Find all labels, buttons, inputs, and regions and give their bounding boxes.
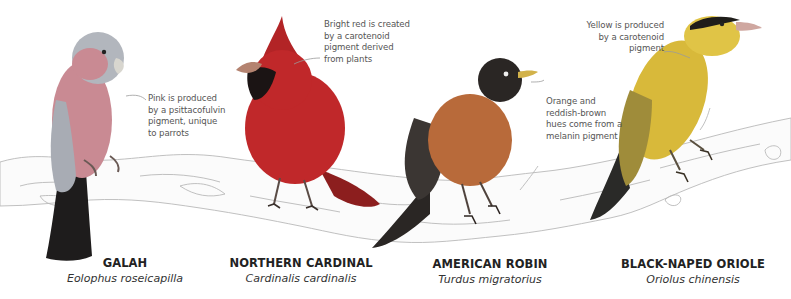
callout-line: Yellow is produced xyxy=(560,20,664,32)
pigment-infographic: Pink is produced by a psittacofulvin pig… xyxy=(0,0,791,299)
callout-line: melanin pigment xyxy=(546,131,622,143)
callout-line: from plants xyxy=(324,54,410,66)
callout-line: by a psittacofulvin xyxy=(148,105,225,117)
robin-label: AMERICAN ROBIN Turdus migratorius xyxy=(400,257,580,286)
cardinal-label: NORTHERN CARDINAL Cardinalis cardinalis xyxy=(211,256,391,285)
callout-line: reddish-brown xyxy=(546,108,622,120)
scientific-name: Oriolus chinensis xyxy=(603,273,783,286)
galah-label: GALAH Eolophus roseicapilla xyxy=(35,256,215,285)
common-name: GALAH xyxy=(35,256,215,270)
callout-line: Pink is produced xyxy=(148,93,225,105)
callout-line: by a carotenoid xyxy=(560,32,664,44)
callout-line: hues come from a xyxy=(546,119,622,131)
scientific-name: Cardinalis cardinalis xyxy=(211,272,391,285)
callout-line: Orange and xyxy=(546,96,622,108)
callout-line: Bright red is created xyxy=(324,19,410,31)
callout-line: by a carotenoid xyxy=(324,31,410,43)
common-name: AMERICAN ROBIN xyxy=(400,257,580,271)
common-name: BLACK-NAPED ORIOLE xyxy=(603,257,783,271)
callout-line: pigment, unique xyxy=(148,116,225,128)
galah-callout: Pink is produced by a psittacofulvin pig… xyxy=(148,93,225,139)
callout-line: to parrots xyxy=(148,128,225,140)
galah-illustration xyxy=(46,32,124,261)
scientific-name: Turdus migratorius xyxy=(400,273,580,286)
common-name: NORTHERN CARDINAL xyxy=(211,256,391,270)
callout-line: pigment derived xyxy=(324,42,410,54)
oriole-callout: Yellow is produced by a carotenoid pigme… xyxy=(560,20,664,55)
scientific-name: Eolophus roseicapilla xyxy=(35,272,215,285)
callout-line: pigment xyxy=(560,43,664,55)
robin-callout: Orange and reddish-brown hues come from … xyxy=(546,96,622,142)
cardinal-callout: Bright red is created by a carotenoid pi… xyxy=(324,19,410,65)
oriole-label: BLACK-NAPED ORIOLE Oriolus chinensis xyxy=(603,257,783,286)
